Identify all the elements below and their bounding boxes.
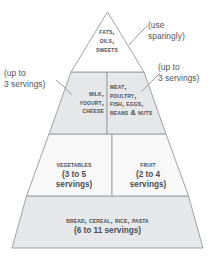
tier-label-fruit-name: Fruit (140, 160, 155, 169)
tier-label-vegetables-servings: (3 to 5 servings) (42, 170, 106, 189)
tier-label-fats: Fats, Oils, Sweets (76, 28, 138, 55)
tier-label-vegetables-name: Vegetables (56, 160, 91, 169)
tier-label-grains-servings: (6 to 11 servings) (20, 226, 195, 236)
annotation-use-sparingly: (use sparingly) (148, 20, 216, 41)
tier-label-fruit-servings: (2 to 4 servings) (118, 170, 178, 189)
annotation-dairy-servings: (up to 3 servings) (4, 68, 70, 89)
tier-label-protein: Meat, Poultry, Fish, Eggs, Beans & Nuts (110, 83, 172, 117)
food-pyramid-figure: Fats, Oils, Sweets Milk, Yogurt, Cheese … (0, 0, 219, 257)
tier-label-dairy: Milk, Yogurt, Cheese (46, 90, 104, 116)
tier-label-vegetables: Vegetables (3 to 5 servings) (42, 152, 106, 198)
annotation-protein-servings: (up to 3 servings) (158, 62, 218, 83)
tier-label-fruit: Fruit (2 to 4 servings) (118, 152, 178, 198)
tier-label-grains-name: Bread, Cereal, Rice, Pasta (66, 216, 149, 225)
tier-label-grains: Bread, Cereal, Rice, Pasta (6 to 11 serv… (20, 208, 195, 245)
